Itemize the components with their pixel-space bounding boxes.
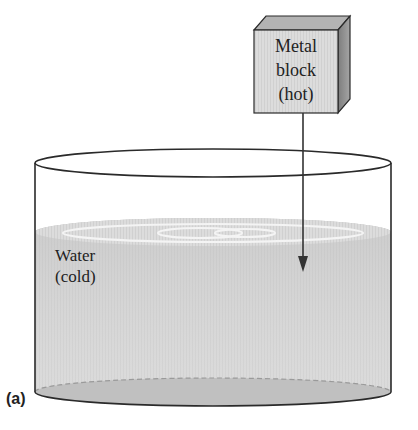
metal-block-label-line2: block	[254, 58, 338, 82]
metal-block-label: Metal block (hot)	[254, 34, 338, 106]
metal-block-label-line3: (hot)	[254, 82, 338, 106]
heat-transfer-diagram: Metal block (hot) Water (cold) (a)	[0, 0, 418, 430]
panel-label: (a)	[6, 389, 26, 409]
water-label-line1: Water	[55, 245, 96, 266]
water-label: Water (cold)	[55, 245, 96, 287]
diagram-graphic	[0, 0, 418, 430]
water-label-line2: (cold)	[55, 266, 96, 287]
metal-block-label-line1: Metal	[254, 34, 338, 58]
